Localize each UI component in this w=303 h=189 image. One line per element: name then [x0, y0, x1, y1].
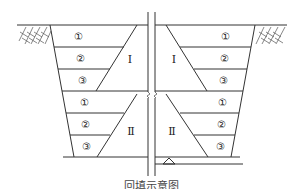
- layer-label-left-1: ①: [74, 31, 83, 42]
- pipe: [147, 12, 157, 176]
- layer-label-left-4: ①: [80, 97, 89, 108]
- support-triangle-icon: [163, 158, 175, 164]
- trench-backfill-diagram: ① ② ③ ① ② ③ ① ② ③ ① ② ③ Ⅰ Ⅰ Ⅱ Ⅱ: [0, 0, 303, 189]
- figure-caption: 回填示意图: [0, 181, 303, 189]
- zone-label-right-lower: Ⅱ: [168, 125, 175, 138]
- layer-label-left-6: ③: [82, 141, 91, 152]
- layer-label-right-1: ①: [221, 31, 230, 42]
- zone-label-left-lower: Ⅱ: [127, 125, 134, 138]
- layer-label-right-3: ③: [219, 75, 228, 86]
- layer-label-left-2: ②: [76, 53, 85, 64]
- zone-label-right-upper: Ⅰ: [172, 53, 176, 66]
- soil-hatch-right-icon: [256, 27, 285, 44]
- zone-label-left-upper: Ⅰ: [128, 53, 132, 66]
- layer-label-right-6: ③: [216, 141, 225, 152]
- layer-lines-right: [155, 47, 251, 135]
- layer-label-right-5: ②: [217, 119, 226, 130]
- break-symbol-icon: [147, 92, 150, 98]
- layer-label-right-4: ①: [218, 97, 227, 108]
- soil-hatch-left-icon: [19, 27, 51, 44]
- layer-label-right-2: ②: [220, 53, 229, 64]
- trench-base: [63, 157, 243, 164]
- layer-label-left-3: ③: [78, 75, 87, 86]
- layer-label-left-5: ②: [81, 119, 90, 130]
